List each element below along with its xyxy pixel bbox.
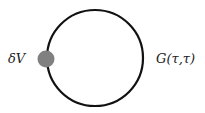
propagator-loop bbox=[47, 10, 143, 106]
vertex-dot bbox=[38, 51, 55, 68]
propagator-label: G(τ,τ) bbox=[156, 52, 195, 65]
tadpole-diagram: δV G(τ,τ) bbox=[0, 0, 205, 113]
vertex-label: δV bbox=[8, 52, 25, 65]
